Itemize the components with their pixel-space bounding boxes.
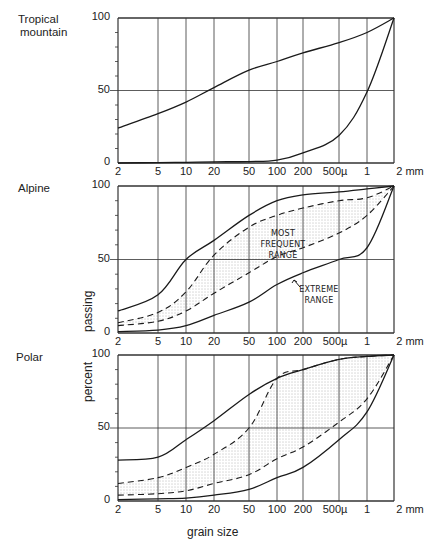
x-tick-label: 100	[268, 165, 286, 177]
x-tick-label: 1	[364, 503, 370, 515]
x-tick-label: 50	[243, 503, 255, 515]
x-tick-label: 50	[243, 165, 255, 177]
x-tick-label: 20	[208, 165, 220, 177]
x-tick-label: 2	[115, 335, 121, 347]
x-tick-label: 10	[180, 335, 192, 347]
x-tick-label: 10	[180, 165, 192, 177]
panel-title-alpine: Alpine	[18, 182, 50, 195]
x-tick-label: 100	[268, 503, 286, 515]
x-tick-label: 5	[155, 335, 161, 347]
x-tick-label: 100	[268, 335, 286, 347]
x-tick-label: 10	[180, 503, 192, 515]
y-tick-label: 50	[88, 83, 110, 95]
panel-polar	[110, 355, 394, 501]
y-tick-label: 50	[88, 420, 110, 432]
x-tick-label: 5	[155, 165, 161, 177]
annotation-extreme-range: EXTREME RANGE	[299, 284, 339, 306]
x-tick-label: 2 mm	[396, 165, 424, 177]
panel-title-tropical: Tropical mountain	[18, 13, 67, 39]
grain-size-chart	[0, 0, 430, 548]
x-tick-label: 2	[115, 503, 121, 515]
x-tick-label: 50	[243, 335, 255, 347]
y-tick-label: 100	[88, 10, 110, 22]
y-tick-label: 50	[88, 252, 110, 264]
x-tick-label: 20	[208, 503, 220, 515]
y-tick-label: 0	[88, 493, 110, 505]
annotation-most-frequent-range: MOST FREQUENT RANGE	[252, 228, 314, 261]
x-tick-label: 5	[155, 503, 161, 515]
panel-tropical-mountain	[110, 18, 394, 163]
x-tick-label: 500µ	[323, 165, 348, 177]
x-tick-label: 200	[294, 165, 312, 177]
y-tick-label: 0	[88, 155, 110, 167]
x-tick-label: 2 mm	[396, 335, 424, 347]
panel-title-polar: Polar	[16, 351, 43, 364]
x-tick-label: 20	[208, 335, 220, 347]
annotation-extreme-line1: EXTREME	[299, 284, 339, 295]
x-tick-label: 1	[364, 335, 370, 347]
panel-title-tropical-line2: mountain	[18, 26, 67, 39]
panel-title-tropical-line1: Tropical	[18, 13, 67, 26]
curve-upper-envelope	[118, 18, 394, 128]
y-tick-label: 100	[88, 347, 110, 359]
annotation-most-frequent-line2: RANGE	[252, 250, 314, 261]
y-axis-label-percent: percent	[81, 362, 95, 402]
x-tick-label: 1	[364, 165, 370, 177]
x-tick-label: 500µ	[323, 335, 348, 347]
x-axis-label: grain size	[187, 525, 238, 539]
x-tick-label: 200	[294, 335, 312, 347]
y-tick-label: 0	[88, 325, 110, 337]
y-tick-label: 100	[88, 178, 110, 190]
annotation-most-frequent-line1: MOST FREQUENT	[252, 228, 314, 250]
most-frequent-range-shading	[118, 355, 394, 495]
x-tick-label: 500µ	[323, 503, 348, 515]
x-tick-label: 2 mm	[396, 503, 424, 515]
annotation-extreme-line2: RANGE	[299, 295, 339, 306]
x-tick-label: 200	[294, 503, 312, 515]
x-tick-label: 2	[115, 165, 121, 177]
